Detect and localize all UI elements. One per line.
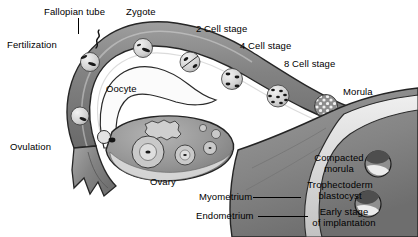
- label-ovary: Ovary: [150, 176, 176, 187]
- ovulated-oocyte: [71, 107, 89, 125]
- label-trophectoderm-line1: Trophectoderm: [297, 179, 383, 190]
- label-early-stage-line1: Early stage: [302, 206, 386, 217]
- label-4-cell-stage: 4 Cell stage: [240, 40, 291, 51]
- label-fertilization: Fertilization: [7, 39, 57, 50]
- label-fallopian-tube: Fallopian tube: [44, 6, 105, 17]
- zygote-cell: [134, 39, 153, 58]
- label-compacted-morula-line2: morula: [303, 163, 375, 174]
- label-ovulation: Ovulation: [10, 141, 51, 152]
- label-oocyte: Oocyte: [106, 83, 137, 94]
- label-endometrium: Endometrium: [196, 210, 254, 221]
- label-myometrium: Myometrium: [199, 191, 252, 202]
- label-trophectoderm-line2: blastocyst: [297, 190, 383, 201]
- diagram-canvas: Fallopian tube Zygote Fertilization 2 Ce…: [0, 0, 418, 237]
- ovary-structure: [98, 116, 234, 181]
- label-zygote: Zygote: [126, 6, 156, 17]
- label-8-cell-stage: 8 Cell stage: [284, 58, 335, 69]
- myometrium-leader: [253, 197, 301, 198]
- eight-cell-embryo: [267, 85, 289, 107]
- four-cell-embryo: [222, 69, 243, 90]
- fallopian-tube-leader: [78, 18, 79, 34]
- label-compacted-morula-line1: Compacted: [303, 152, 375, 163]
- label-2-cell-stage: 2 Cell stage: [196, 23, 247, 34]
- two-cell-embryo: [180, 52, 200, 72]
- label-morula: Morula: [343, 86, 373, 97]
- label-early-stage-line2: of implantation: [298, 217, 390, 228]
